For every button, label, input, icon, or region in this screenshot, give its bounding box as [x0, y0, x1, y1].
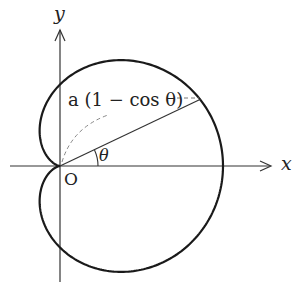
- cardioid-diagram: [0, 0, 298, 286]
- curve-label: a (1 − cos θ): [68, 89, 183, 110]
- x-axis-label: x: [281, 152, 292, 174]
- y-axis-label: y: [54, 2, 65, 24]
- angle-arc: [95, 150, 99, 166]
- origin-label: O: [64, 169, 78, 189]
- angle-label: θ: [99, 146, 109, 165]
